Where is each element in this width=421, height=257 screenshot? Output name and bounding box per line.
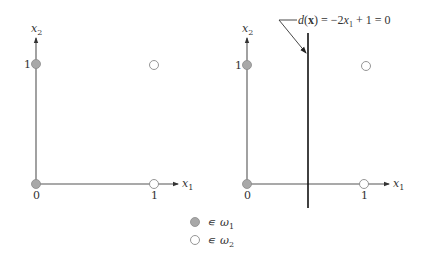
point-0-0-class1 bbox=[243, 180, 252, 189]
point-1-1-class2 bbox=[362, 62, 371, 71]
x-axis-label: x1 bbox=[182, 177, 193, 192]
y-axis-label: x2 bbox=[242, 22, 253, 37]
boundary-equation: d(x) = −2x1 + 1 = 0 bbox=[298, 13, 390, 29]
point-1-0-class2 bbox=[360, 180, 369, 189]
tick-label-y1: 1 bbox=[235, 59, 242, 72]
left-plot: x2 x1 0 1 1 bbox=[24, 22, 193, 202]
tick-label-x0: 0 bbox=[33, 189, 40, 202]
figure: x2 x1 0 1 1 d(x) = −2x1 + 1 = 0 x2 bbox=[0, 0, 421, 257]
open-circle-icon bbox=[191, 236, 200, 245]
point-0-0-class1 bbox=[32, 180, 41, 189]
point-0-1-class1 bbox=[243, 61, 252, 70]
tick-label-x0: 0 bbox=[244, 189, 251, 202]
y-axis-label: x2 bbox=[31, 22, 42, 37]
point-1-1-class2 bbox=[150, 61, 159, 70]
tick-label-y1: 1 bbox=[24, 58, 31, 71]
x-axis-label: x1 bbox=[393, 177, 404, 192]
legend-item-class1: ∊ω1 bbox=[191, 216, 235, 231]
legend-label-class2: ∊ω2 bbox=[207, 234, 234, 249]
tick-label-x1: 1 bbox=[361, 189, 368, 202]
right-plot: d(x) = −2x1 + 1 = 0 x2 x1 0 1 1 bbox=[235, 13, 404, 208]
legend-label-class1: ∊ω1 bbox=[207, 216, 234, 231]
filled-circle-icon bbox=[191, 218, 200, 227]
legend-item-class2: ∊ω2 bbox=[191, 234, 235, 249]
legend: ∊ω1 ∊ω2 bbox=[191, 216, 235, 249]
point-1-0-class2 bbox=[150, 180, 159, 189]
point-0-1-class1 bbox=[32, 60, 41, 69]
tick-label-x1: 1 bbox=[151, 189, 158, 202]
